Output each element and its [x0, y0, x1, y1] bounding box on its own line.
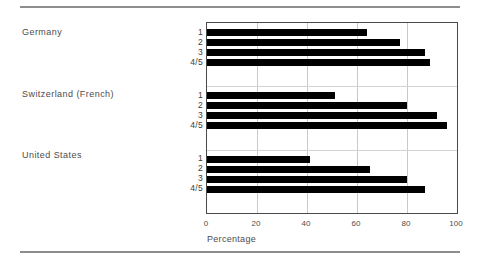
group-label-germany: Germany — [22, 27, 62, 37]
bar — [207, 29, 367, 36]
chart-figure: Germany Switzerland (French) United Stat… — [0, 0, 480, 261]
group-label-united-states: United States — [22, 150, 82, 160]
x-tick-label-20: 20 — [252, 219, 261, 228]
bar — [207, 166, 370, 173]
bar — [207, 156, 310, 163]
bar — [207, 122, 447, 129]
x-tick-label-40: 40 — [302, 219, 311, 228]
bar-series — [207, 23, 457, 213]
bar — [207, 186, 425, 193]
plot-area — [206, 22, 458, 214]
category-label: 4/5 — [181, 120, 203, 130]
group-label-switzerland-french: Switzerland (French) — [22, 89, 114, 99]
top-divider-rule — [20, 6, 460, 8]
x-tick-label-100: 100 — [449, 219, 462, 228]
category-label: 1 — [181, 27, 203, 37]
x-tick-label-80: 80 — [402, 219, 411, 228]
category-label: 3 — [181, 173, 203, 183]
category-label: 3 — [181, 110, 203, 120]
x-tick-label-0: 0 — [204, 219, 208, 228]
bar — [207, 92, 335, 99]
bar — [207, 176, 407, 183]
category-label: 1 — [181, 90, 203, 100]
bar — [207, 102, 407, 109]
category-label: 2 — [181, 37, 203, 47]
category-label: 1 — [181, 153, 203, 163]
category-label: 4/5 — [181, 57, 203, 67]
category-label: 3 — [181, 47, 203, 57]
category-label: 2 — [181, 163, 203, 173]
bottom-divider-rule — [20, 251, 460, 253]
bar — [207, 49, 425, 56]
bar — [207, 39, 400, 46]
bar — [207, 59, 430, 66]
x-tick-label-60: 60 — [352, 219, 361, 228]
category-label: 2 — [181, 100, 203, 110]
x-axis-title: Percentage — [207, 234, 256, 244]
category-label: 4/5 — [181, 183, 203, 193]
bar — [207, 112, 437, 119]
